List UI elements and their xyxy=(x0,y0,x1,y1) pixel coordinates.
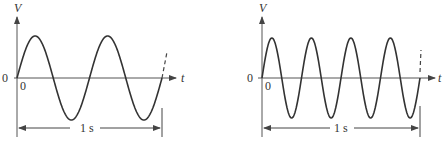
right-origin-left-label: 0 xyxy=(247,71,253,85)
right-y-axis-label: V xyxy=(259,1,268,15)
waveform-figure: V t 0 0 1 s V t 0 0 1 s xyxy=(0,0,444,153)
left-dashed-continuation xyxy=(162,52,167,78)
left-origin-left-label: 0 xyxy=(2,71,8,85)
right-origin-below-label: 0 xyxy=(265,79,271,93)
right-dashed-continuation xyxy=(420,50,421,72)
left-waveform-diagram: V t 0 0 1 s xyxy=(2,1,185,137)
left-origin-below-label: 0 xyxy=(20,79,26,93)
right-duration-label: 1 s xyxy=(334,121,348,135)
left-y-axis-label: V xyxy=(14,1,23,15)
left-x-axis-label: t xyxy=(181,71,185,85)
left-duration-label: 1 s xyxy=(80,121,94,135)
right-waveform-diagram: V t 0 0 1 s xyxy=(247,1,442,137)
right-x-axis-label: t xyxy=(438,71,442,85)
